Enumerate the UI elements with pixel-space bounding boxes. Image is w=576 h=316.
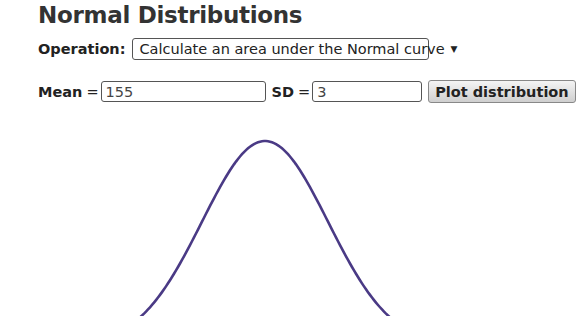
parameters-row: Mean = 155 SD = 3 Plot distribution [38,80,576,103]
operation-label: Operation: [38,41,125,57]
mean-input[interactable]: 155 [101,81,266,102]
sd-equals: = [298,84,310,100]
sd-input[interactable]: 3 [312,81,422,102]
mean-label: Mean [38,84,82,100]
normal-curve [60,141,470,316]
operation-row: Operation: Calculate an area under the N… [38,38,429,60]
mean-equals: = [86,84,98,100]
plot-distribution-button[interactable]: Plot distribution [428,80,575,103]
page-title: Normal Distributions [38,2,302,28]
operation-selected-value: Calculate an area under the Normal curve [139,41,444,57]
operation-select[interactable]: Calculate an area under the Normal curve… [132,38,429,60]
sd-label: SD [272,84,294,100]
normal-curve-svg [0,110,549,316]
distribution-plot [0,110,549,316]
chevron-down-icon: ▼ [451,44,458,54]
